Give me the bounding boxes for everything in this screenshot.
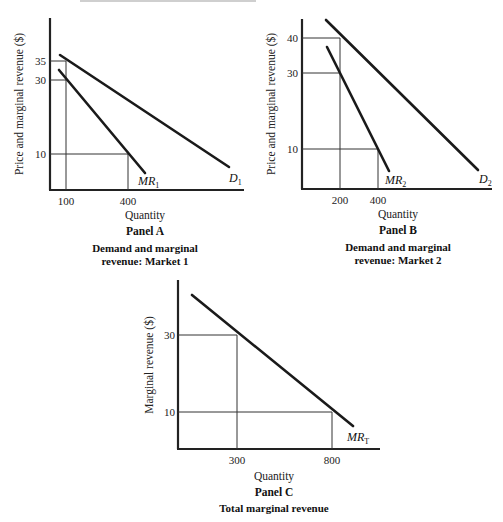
panel-a-y-axis-label: Price and marginal revenue ($) <box>13 33 26 175</box>
panel-a-ytick-10: 10 <box>35 148 47 160</box>
panel-b-demand-curve-d2 <box>326 20 478 170</box>
panel-c-guide-lines <box>178 335 332 449</box>
panel-c-x-axis-label: Quantity <box>254 470 294 483</box>
panel-a-title: Panel A <box>126 225 165 237</box>
panel-a-d1-label: D1 <box>228 171 242 187</box>
panel-a-x-axis-label: Quantity <box>125 209 165 222</box>
panel-b-subtitle-line2: revenue: Market 2 <box>354 254 442 266</box>
panel-a-guide-lines <box>50 61 128 190</box>
panel-b-mr-curve-mr2 <box>327 47 389 171</box>
panel-a: Price and marginal revenue ($) 35 30 10 … <box>13 18 244 267</box>
panel-a-mr1-label: MR1 <box>137 174 159 190</box>
cropped-caption <box>80 0 256 2</box>
panel-c-total-mr-curve <box>192 295 353 426</box>
panel-a-ytick-35: 35 <box>35 55 47 67</box>
panel-c-xtick-300: 300 <box>229 454 246 466</box>
panel-b-x-axis-label: Quantity <box>378 208 418 221</box>
figure: Price and marginal revenue ($) 35 30 10 … <box>0 0 503 522</box>
panel-a-subtitle-line1: Demand and marginal <box>92 242 198 254</box>
panel-b-xtick-400: 400 <box>370 194 387 206</box>
panel-a-xtick-100: 100 <box>58 195 75 207</box>
panel-b-title: Panel B <box>379 224 417 236</box>
panel-b-ytick-30: 30 <box>287 67 299 79</box>
panel-c-subtitle: Total marginal revenue <box>219 502 329 514</box>
panel-b-ytick-10: 10 <box>287 143 299 155</box>
panel-c-title: Panel C <box>255 486 294 498</box>
panel-b-mr2-label: MR2 <box>384 173 406 189</box>
panel-c-mrt-label: MRT <box>346 430 369 446</box>
panel-b-d2-label: D2 <box>478 172 492 188</box>
panel-a-subtitle-line2: revenue: Market 1 <box>101 255 188 267</box>
panel-c-ytick-10: 10 <box>164 406 176 418</box>
panel-b-ytick-40: 40 <box>287 32 299 44</box>
panel-c-xtick-800: 800 <box>324 454 341 466</box>
panel-c: Marginal revenue ($) 30 10 300 800 MRT Q… <box>143 280 380 514</box>
panel-c-ytick-30: 30 <box>164 329 176 341</box>
panel-b: Price and marginal revenue ($) 40 30 10 … <box>265 19 492 266</box>
panel-b-xtick-200: 200 <box>332 194 349 206</box>
panel-a-ytick-30: 30 <box>35 74 47 86</box>
panel-a-demand-curve-d1 <box>60 55 229 167</box>
panel-a-xtick-400: 400 <box>120 195 137 207</box>
panel-a-mr-curve-mr1 <box>59 70 145 173</box>
panel-c-y-axis-label: Marginal revenue ($) <box>143 316 156 414</box>
panel-b-y-axis-label: Price and marginal revenue ($) <box>265 33 278 175</box>
panel-b-subtitle-line1: Demand and marginal <box>345 241 451 253</box>
